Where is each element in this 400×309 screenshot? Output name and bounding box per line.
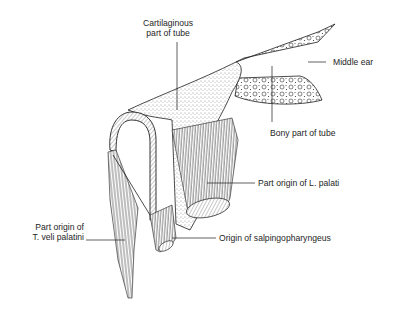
label-l-palati: Part origin of L. palati (258, 178, 339, 188)
label-t-veli-line1: Part origin of (18, 222, 84, 232)
tensor-veli-palatini-muscle (108, 150, 150, 298)
label-cartilaginous: Cartilaginous part of tube (143, 18, 193, 38)
label-t-veli-palatini: Part origin of T. veli palatini (18, 222, 84, 242)
label-t-veli-line2: T. veli palatini (18, 232, 84, 242)
diagram-drawing (0, 0, 400, 309)
label-salpingopharyngeus: Origin of salpingopharyngeus (219, 233, 331, 243)
label-bony-part: Bony part of tube (270, 128, 335, 138)
label-middle-ear: Middle ear (333, 57, 373, 67)
label-cartilaginous-line2: part of tube (143, 28, 193, 38)
label-cartilaginous-line1: Cartilaginous (143, 18, 193, 28)
anatomy-diagram: Cartilaginous part of tube Middle ear Bo… (0, 0, 400, 309)
bony-tube-lower (235, 76, 322, 104)
bony-tube-upper (236, 24, 335, 62)
